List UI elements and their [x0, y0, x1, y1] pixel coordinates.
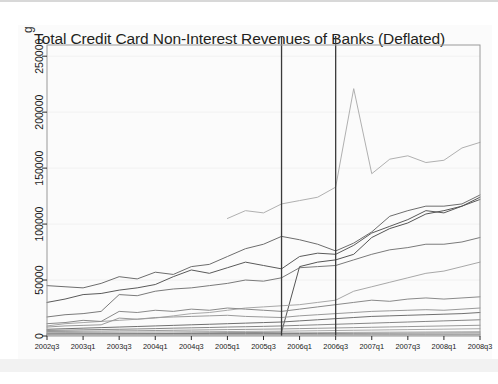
y-tick-label: 0 [33, 333, 45, 339]
y-axis-ticks: 050000100000150000200000250000 [33, 39, 47, 339]
x-tick-label: 2004q1 [143, 342, 168, 351]
series-line [47, 308, 480, 327]
plot-frame [47, 45, 480, 336]
x-tick-label: 2002q3 [35, 342, 60, 351]
series-line [47, 262, 480, 326]
x-tick-label: 2005q3 [251, 342, 276, 351]
series-layer [47, 89, 480, 336]
x-tick-label: 2006q3 [323, 342, 348, 351]
chart-screenshot: g Total Credit Card Non-Interest Revenue… [0, 0, 498, 384]
y-tick-label: 250000 [33, 39, 45, 74]
series-line [47, 199, 480, 302]
x-axis-ticks: 2002q32003q12003q32004q12004q32005q12005… [35, 336, 493, 351]
series-line [227, 89, 480, 219]
x-tick-label: 2006q1 [287, 342, 312, 351]
x-tick-label: 2008q3 [468, 342, 493, 351]
x-tick-label: 2005q1 [215, 342, 240, 351]
x-tick-label: 2003q1 [71, 342, 96, 351]
x-tick-label: 2004q3 [179, 342, 204, 351]
reference-lines [282, 36, 336, 336]
y-tick-label: 100000 [33, 206, 45, 241]
plot-border [47, 45, 480, 336]
y-tick-label: 150000 [33, 150, 45, 185]
series-line [47, 195, 480, 288]
y-tick-label: 200000 [33, 94, 45, 129]
x-tick-label: 2007q3 [395, 342, 420, 351]
y-tick-label: 50000 [33, 265, 45, 294]
bottom-band [0, 359, 498, 372]
gridlines [47, 56, 480, 336]
x-tick-label: 2003q3 [107, 342, 132, 351]
line-chart-plot: 050000100000150000200000250000 2002q3200… [0, 0, 498, 384]
series-line [47, 238, 480, 317]
x-tick-label: 2007q1 [359, 342, 384, 351]
x-tick-label: 2008q1 [432, 342, 457, 351]
